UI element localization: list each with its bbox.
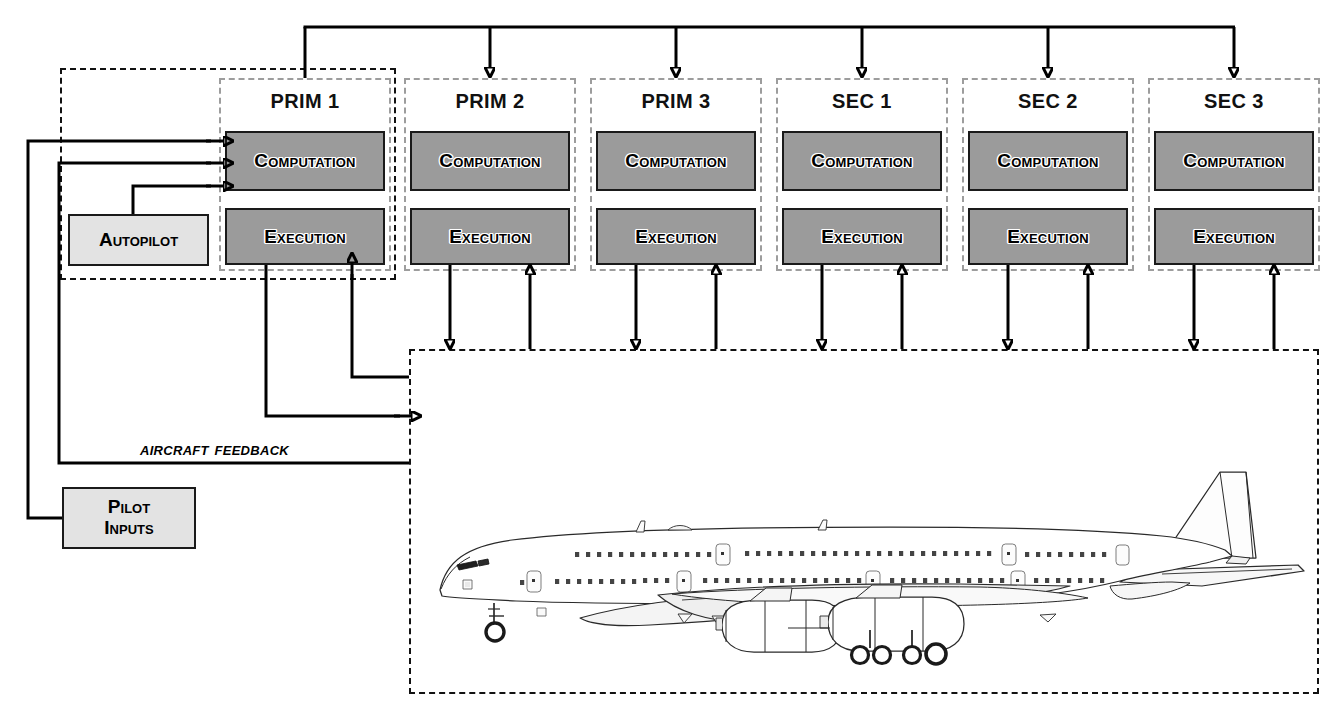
- sec-1-execution-block[interactable]: Execution: [782, 208, 942, 265]
- aircraft-feedback-caption: Aircraft Feedback: [140, 438, 289, 460]
- block-label: Execution: [635, 226, 717, 248]
- block-label: Execution: [264, 226, 346, 248]
- pilot-inputs-block[interactable]: Pilot Inputs: [62, 487, 196, 549]
- block-label: Execution: [1193, 226, 1275, 248]
- block-label: Computation: [1183, 150, 1284, 172]
- diagram-canvas: PRIM 1 Computation Execution PRIM 2 Comp…: [0, 0, 1343, 723]
- unit-title: SEC 3: [1150, 90, 1318, 113]
- wire-prim1-execution-to-aircraft: [266, 265, 400, 416]
- block-label: Computation: [439, 150, 540, 172]
- sec-1-computation-block[interactable]: Computation: [782, 131, 942, 191]
- prim-1-computation-block[interactable]: Computation: [225, 131, 385, 191]
- unit-title: PRIM 1: [221, 90, 389, 113]
- prim-2-execution-block[interactable]: Execution: [410, 208, 570, 265]
- prim-1-execution-block[interactable]: Execution: [225, 208, 385, 265]
- unit-title: SEC 1: [778, 90, 946, 113]
- prim-3-execution-block[interactable]: Execution: [596, 208, 756, 265]
- pilot-inputs-label-line1: Pilot: [108, 497, 150, 518]
- wire-aircraft-to-prim1-execution: [352, 274, 409, 377]
- prim-3-computation-block[interactable]: Computation: [596, 131, 756, 191]
- unit-title: PRIM 3: [592, 90, 760, 113]
- block-label: Execution: [821, 226, 903, 248]
- aircraft-enclosure: [409, 349, 1319, 694]
- sec-2-computation-block[interactable]: Computation: [968, 131, 1128, 191]
- block-label: Computation: [625, 150, 726, 172]
- sec-2-execution-block[interactable]: Execution: [968, 208, 1128, 265]
- block-label: Computation: [811, 150, 912, 172]
- block-label: Execution: [1007, 226, 1089, 248]
- pilot-inputs-label-line2: Inputs: [104, 518, 153, 539]
- autopilot-label: Autopilot: [99, 230, 178, 251]
- prim-2-computation-block[interactable]: Computation: [410, 131, 570, 191]
- block-label: Execution: [449, 226, 531, 248]
- unit-title: PRIM 2: [406, 90, 574, 113]
- unit-title: SEC 2: [964, 90, 1132, 113]
- sec-3-computation-block[interactable]: Computation: [1154, 131, 1314, 191]
- sec-3-execution-block[interactable]: Execution: [1154, 208, 1314, 265]
- block-label: Computation: [997, 150, 1098, 172]
- autopilot-block[interactable]: Autopilot: [68, 214, 209, 266]
- block-label: Computation: [254, 150, 355, 172]
